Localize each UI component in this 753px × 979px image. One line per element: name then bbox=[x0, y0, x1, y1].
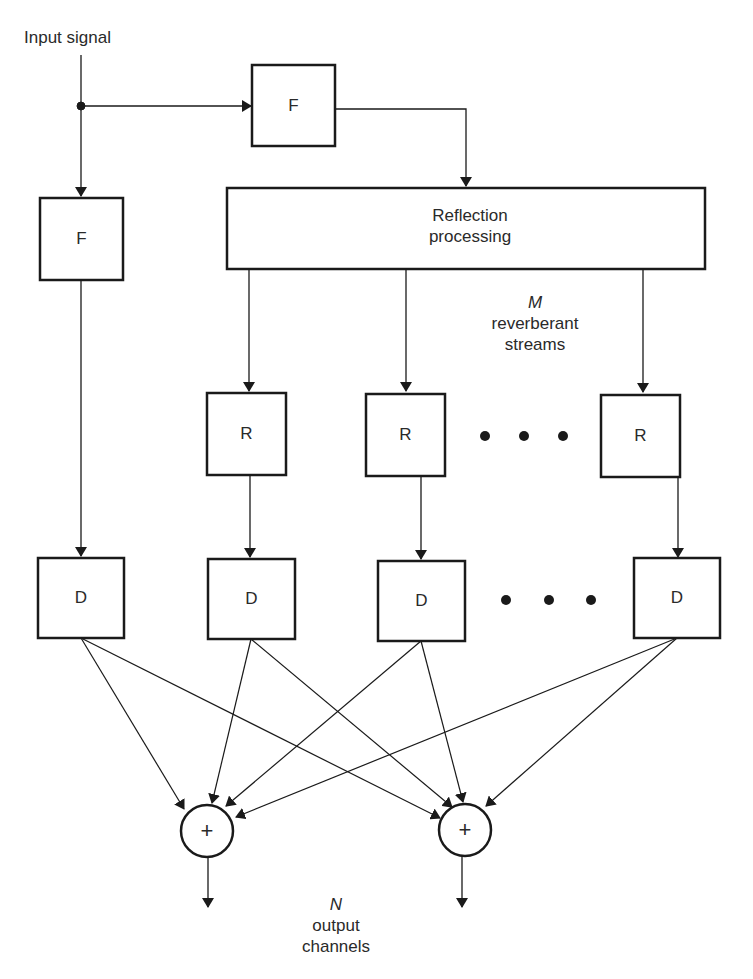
top-filter-to-reflection-arrow bbox=[335, 109, 466, 186]
delay-label-1: D bbox=[38, 558, 124, 638]
delay-label-4: D bbox=[634, 558, 720, 638]
reflection-label: Reflection processing bbox=[370, 205, 570, 247]
sum-symbol-1: + bbox=[181, 805, 233, 857]
reverb-label-3: R bbox=[601, 395, 680, 477]
delay-label-2: D bbox=[208, 559, 295, 639]
streams-label: M reverberant streams bbox=[480, 292, 590, 355]
sum-symbol-2: + bbox=[439, 804, 491, 856]
delay-label-3: D bbox=[378, 561, 465, 641]
ellipsis-dots bbox=[480, 431, 596, 605]
signal-flow-diagram bbox=[0, 0, 753, 979]
reverb-label-2: R bbox=[366, 394, 445, 476]
input-signal-label: Input signal bbox=[24, 27, 111, 48]
reverb-label-1: R bbox=[207, 393, 286, 475]
outputs-label: N output channels bbox=[286, 894, 386, 957]
left-filter-label: F bbox=[40, 198, 123, 280]
top-filter-label: F bbox=[252, 65, 335, 146]
